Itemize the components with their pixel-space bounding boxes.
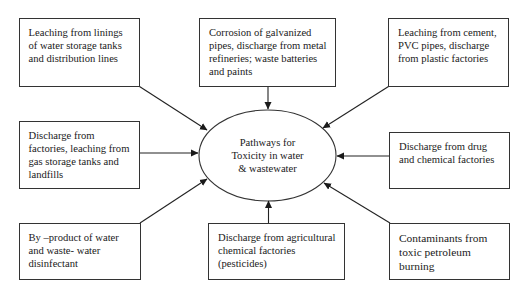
- source-box-bottom-right: Contaminants from toxic petroleum burnin…: [389, 223, 510, 280]
- source-label: Discharge from drug and chemical factori…: [399, 141, 494, 165]
- source-box-middle-right: Discharge from drug and chemical factori…: [389, 132, 510, 189]
- source-label: By –product of water and waste- water di…: [29, 232, 119, 269]
- source-box-top-right: Leaching from cement, PVC pipes, dischar…: [388, 18, 509, 87]
- source-label: Corrosion of galvanized pipes, discharge…: [209, 27, 326, 77]
- source-label: Discharge from factories, leaching from …: [29, 130, 130, 180]
- arrow-bottom-left: [140, 179, 207, 223]
- center-node-label: Pathways for Toxicity in water & wastewa…: [231, 136, 303, 175]
- source-label: Leaching from cement, PVC pipes, dischar…: [398, 27, 497, 64]
- source-box-middle-left: Discharge from factories, leaching from …: [19, 121, 140, 189]
- source-label: Discharge from agricultural chemical fac…: [218, 232, 335, 269]
- source-label: Contaminants from toxic petroleum burnin…: [399, 232, 487, 272]
- source-box-top-left: Leaching from linings of water storage t…: [19, 18, 140, 87]
- source-box-bottom-left: By –product of water and waste- water di…: [19, 223, 141, 280]
- arrow-top-left: [140, 87, 208, 131]
- source-box-bottom-center: Discharge from agricultural chemical fac…: [208, 223, 345, 280]
- source-label: Leaching from linings of water storage t…: [29, 27, 123, 64]
- source-box-top-center: Corrosion of galvanized pipes, discharge…: [199, 18, 336, 87]
- center-node: Pathways for Toxicity in water & wastewa…: [199, 110, 336, 201]
